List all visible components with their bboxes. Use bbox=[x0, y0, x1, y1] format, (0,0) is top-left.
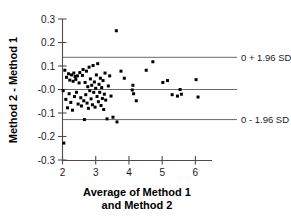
data-point bbox=[166, 79, 169, 82]
data-point bbox=[65, 76, 68, 79]
data-point bbox=[81, 74, 84, 77]
data-point bbox=[99, 77, 102, 80]
data-point bbox=[101, 97, 104, 100]
data-point bbox=[107, 84, 110, 87]
y-axis-title: Method 2 - Method 1 bbox=[7, 37, 19, 143]
data-point bbox=[96, 62, 99, 65]
data-point bbox=[68, 92, 71, 95]
data-point bbox=[86, 85, 89, 88]
data-point bbox=[73, 95, 76, 98]
data-point bbox=[195, 78, 198, 81]
data-point bbox=[94, 87, 97, 90]
data-point bbox=[132, 92, 135, 95]
data-point bbox=[100, 104, 103, 107]
x-axis-ticks: 23456 bbox=[60, 156, 199, 178]
data-point bbox=[78, 71, 81, 74]
data-point bbox=[62, 142, 65, 145]
data-point bbox=[102, 79, 105, 82]
data-point bbox=[108, 74, 111, 77]
data-point bbox=[89, 77, 92, 80]
data-point bbox=[103, 93, 106, 96]
x-tick-label-2: 4 bbox=[126, 167, 132, 178]
data-point bbox=[98, 83, 101, 86]
data-point bbox=[100, 86, 103, 89]
y-tick-label-0: 0.3 bbox=[41, 14, 55, 25]
data-point bbox=[67, 72, 70, 75]
data-point bbox=[90, 97, 93, 100]
data-point bbox=[104, 72, 107, 75]
data-point bbox=[179, 88, 182, 91]
data-point bbox=[95, 73, 98, 76]
data-point bbox=[84, 93, 87, 96]
data-point bbox=[71, 109, 74, 112]
data-point bbox=[180, 93, 183, 96]
data-point bbox=[98, 91, 101, 94]
data-point bbox=[88, 89, 91, 92]
bland-altman-plot: 0.30.20.1-0.0-0.1-0.2-0.3 23456 0 + 1.96… bbox=[0, 0, 291, 219]
y-tick-label-4: -0.1 bbox=[38, 108, 56, 119]
x-axis-title-line-2: and Method 2 bbox=[102, 199, 173, 211]
data-point bbox=[161, 81, 164, 84]
data-point bbox=[72, 72, 75, 75]
x-tick-label-3: 5 bbox=[159, 167, 165, 178]
y-tick-label-2: 0.1 bbox=[41, 61, 55, 72]
data-point bbox=[84, 81, 87, 84]
x-tick-label-4: 6 bbox=[193, 167, 199, 178]
data-point bbox=[82, 99, 85, 102]
data-point bbox=[92, 64, 95, 67]
y-tick-label-6: -0.3 bbox=[38, 155, 56, 166]
data-point bbox=[85, 70, 88, 73]
data-point bbox=[80, 104, 83, 107]
data-point bbox=[110, 95, 113, 98]
data-point bbox=[197, 96, 200, 99]
data-point bbox=[106, 117, 109, 120]
data-point bbox=[145, 69, 148, 72]
data-point bbox=[102, 108, 105, 111]
data-point bbox=[77, 103, 80, 106]
data-point bbox=[64, 98, 67, 101]
x-tick-label-0: 2 bbox=[60, 167, 66, 178]
data-point bbox=[97, 100, 100, 103]
data-point bbox=[87, 107, 90, 110]
data-point bbox=[63, 69, 66, 72]
data-point bbox=[151, 60, 154, 63]
data-point bbox=[78, 81, 81, 84]
data-point bbox=[75, 91, 78, 94]
plot-canvas: 0.30.20.1-0.0-0.1-0.2-0.3 23456 0 + 1.96… bbox=[0, 0, 291, 219]
data-point bbox=[94, 106, 97, 109]
x-tick-label-1: 3 bbox=[93, 167, 99, 178]
data-point bbox=[90, 84, 93, 87]
data-point bbox=[176, 95, 179, 98]
data-point bbox=[91, 103, 94, 106]
y-tick-label-5: -0.2 bbox=[38, 131, 56, 142]
data-point bbox=[135, 99, 138, 102]
data-point bbox=[93, 80, 96, 83]
y-tick-label-3: -0.0 bbox=[38, 84, 56, 95]
data-point bbox=[83, 118, 86, 121]
data-point bbox=[68, 79, 71, 82]
scatter-points bbox=[62, 29, 200, 144]
data-point bbox=[88, 66, 91, 69]
data-point bbox=[62, 89, 65, 92]
data-point bbox=[131, 84, 134, 87]
lower-limit-of-agreement-label: 0 - 1.96 SD bbox=[241, 114, 289, 125]
limit-of-agreement-labels: 0 + 1.96 SD0 - 1.96 SD bbox=[241, 52, 291, 125]
data-point bbox=[96, 95, 99, 98]
data-point bbox=[74, 78, 77, 81]
data-point bbox=[104, 99, 107, 102]
data-point bbox=[123, 77, 126, 80]
data-point bbox=[66, 106, 69, 109]
data-point bbox=[119, 70, 122, 73]
data-point bbox=[131, 88, 134, 91]
y-tick-label-1: 0.2 bbox=[41, 37, 55, 48]
data-point bbox=[115, 29, 118, 32]
x-axis-title-line-1: Average of Method 1 bbox=[83, 186, 191, 198]
data-point bbox=[111, 116, 114, 119]
data-point bbox=[76, 74, 79, 77]
data-point bbox=[86, 102, 89, 105]
data-point bbox=[171, 93, 174, 96]
data-point bbox=[82, 68, 85, 71]
data-point bbox=[115, 120, 118, 123]
data-point bbox=[92, 91, 95, 94]
data-point bbox=[72, 80, 75, 83]
